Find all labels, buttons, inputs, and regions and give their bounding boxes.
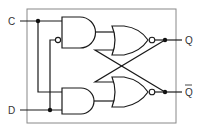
- junction-c: [36, 19, 40, 23]
- and-gate-bottom: [62, 88, 94, 114]
- junction-d: [48, 108, 52, 112]
- label-c: C: [8, 16, 15, 27]
- wire-d-to-and-top: [50, 40, 55, 110]
- nor-top-output-bubble: [149, 37, 155, 43]
- nor-gate-top: [112, 26, 148, 55]
- label-d: D: [8, 105, 15, 116]
- label-qbar: Q: [185, 87, 193, 98]
- nor-bottom-output-bubble: [149, 89, 155, 95]
- inverter-bubble-d: [55, 37, 60, 42]
- nor-gate-bottom: [112, 77, 148, 107]
- label-q: Q: [185, 35, 193, 46]
- and-gate-top: [62, 17, 96, 48]
- circuit-border: [27, 9, 176, 123]
- d-latch-diagram: C D Q Q: [0, 0, 205, 130]
